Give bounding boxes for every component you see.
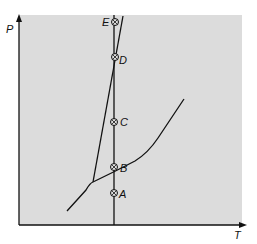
svg-text:B: B: [120, 162, 127, 174]
svg-text:D: D: [119, 54, 127, 66]
svg-text:C: C: [120, 116, 128, 128]
y-axis-label: P: [6, 23, 14, 35]
plot-area: [19, 15, 242, 225]
svg-text:A: A: [118, 188, 126, 200]
x-axis-arrow-icon: [239, 222, 247, 228]
svg-text:E: E: [102, 16, 110, 28]
phase-diagram: P T E D C B A: [0, 0, 257, 244]
x-axis-label: T: [234, 229, 242, 241]
